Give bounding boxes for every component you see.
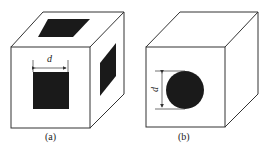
cube-a-right-hole [100, 43, 116, 96]
cube-a-top-hole [38, 19, 90, 37]
cube-b-top-face [146, 12, 258, 47]
dimension-label-a: d [47, 53, 52, 64]
figure-canvas [0, 0, 267, 157]
cube-b-circular-hole [166, 71, 204, 109]
cube-a-front-square-hole [33, 72, 69, 109]
cube-b [146, 12, 258, 127]
dimension-label-b: d [149, 87, 160, 92]
caption-a: (a) [45, 131, 56, 142]
cube-a [11, 12, 124, 128]
caption-b: (b) [178, 131, 190, 142]
